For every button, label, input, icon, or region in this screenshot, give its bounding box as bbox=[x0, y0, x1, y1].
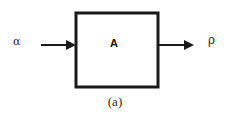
output-arrow-head-icon bbox=[184, 40, 194, 50]
system-block-outline bbox=[76, 13, 158, 87]
block-diagram-figure: α A ρ (a) bbox=[0, 0, 230, 119]
output-signal-label: ρ bbox=[208, 34, 215, 46]
input-signal-label: α bbox=[13, 36, 20, 47]
figure-caption: (a) bbox=[0, 95, 230, 108]
system-block-label: A bbox=[110, 38, 118, 49]
